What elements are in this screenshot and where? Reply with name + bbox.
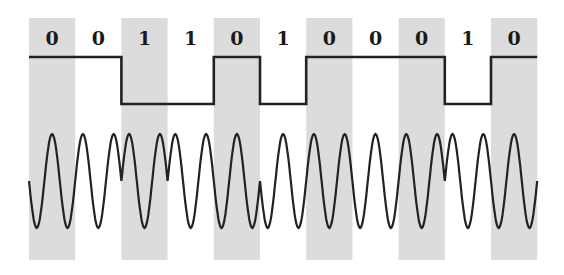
bit-shade-column — [399, 18, 445, 260]
bit-label: 1 — [461, 27, 474, 49]
bit-label: 1 — [138, 27, 151, 49]
bit-label: 0 — [415, 27, 428, 49]
bit-label: 1 — [184, 27, 197, 49]
bit-shade-column — [214, 18, 260, 260]
bit-labels: 00110100010 — [45, 27, 520, 49]
bit-shade-column — [121, 18, 167, 260]
digital-bit-signal — [29, 57, 537, 104]
bit-shade-column — [491, 18, 537, 260]
bit-label: 0 — [92, 27, 105, 49]
bit-label: 1 — [276, 27, 289, 49]
dpsk-diagram: 00110100010 — [0, 0, 564, 275]
bit-label: 0 — [369, 27, 382, 49]
bit-shade-column — [29, 18, 75, 260]
bit-label: 0 — [507, 27, 520, 49]
bit-shading-columns — [29, 18, 537, 260]
modulated-carrier-wave — [29, 134, 537, 228]
bit-label: 0 — [323, 27, 336, 49]
bit-label: 0 — [45, 27, 58, 49]
bit-label: 0 — [230, 27, 243, 49]
bit-shade-column — [306, 18, 352, 260]
